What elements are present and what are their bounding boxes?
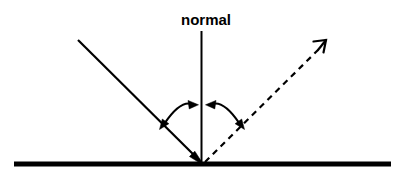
- reflected-ray: [205, 40, 326, 162]
- normal-label: normal: [181, 12, 231, 27]
- incident-ray: [78, 40, 204, 166]
- angle-of-reflection-arc: [206, 100, 245, 129]
- reflection-diagram: normal: [0, 0, 401, 181]
- angle-of-incidence-arc: [160, 100, 199, 129]
